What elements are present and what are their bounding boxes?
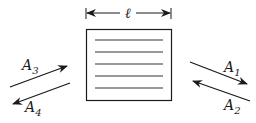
label-a2: A2 (222, 97, 241, 116)
arrow-a4-icon (13, 83, 70, 104)
scattering-diagram: ℓ A3 A4 A1 A2 (0, 0, 256, 123)
slab (87, 30, 172, 101)
arrow-A2: A2 (193, 81, 250, 116)
length-dimension: ℓ (86, 5, 171, 21)
arrow-a3-icon (10, 66, 67, 87)
label-a4: A4 (23, 99, 42, 118)
arrow-A1: A1 (190, 59, 247, 84)
length-label: ℓ (125, 5, 131, 21)
arrow-A3: A3 (10, 57, 67, 87)
arrow-a2-icon (193, 81, 250, 101)
label-a3: A3 (20, 57, 39, 76)
arrow-A4: A4 (13, 83, 70, 118)
